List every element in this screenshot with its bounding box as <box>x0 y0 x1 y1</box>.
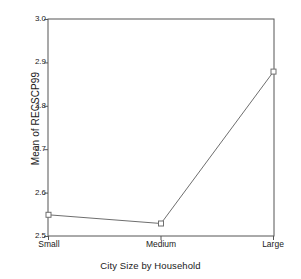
x-tick-label: Small <box>19 240 79 249</box>
data-point-marker <box>271 69 276 74</box>
plot-background <box>48 19 274 236</box>
x-tick-label: Medium <box>131 240 191 249</box>
line-chart: Mean of RECSCP99 3.0 2.9 2.8 2.7 2.6 2.5 <box>0 0 301 279</box>
data-point-marker <box>159 221 164 226</box>
plot-area <box>0 0 301 279</box>
x-tick-label: Large <box>243 240 301 249</box>
x-axis-title: City Size by Household <box>0 260 301 271</box>
data-point-marker <box>46 212 51 217</box>
y-axis-ticks <box>44 20 48 237</box>
